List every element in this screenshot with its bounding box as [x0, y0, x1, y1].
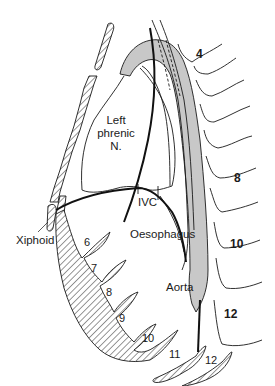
thorax-diagram: Left phrenic N. IVC Oesophagus Xiphoid A…	[0, 0, 275, 386]
vertebra-outline-6	[196, 80, 244, 96]
vertebra-outline-8a	[204, 130, 252, 148]
vertebra-number-10: 10	[230, 237, 244, 251]
manubrium-segment	[95, 23, 114, 70]
label-aorta: Aorta	[166, 281, 194, 293]
cartilage-number-8: 8	[106, 286, 112, 298]
vertebra-outline-11	[216, 258, 262, 289]
label-left-phrenic-1: Left	[106, 114, 126, 126]
vertebra-outline-12	[214, 300, 262, 346]
label-left-phrenic-2: phrenic	[97, 127, 135, 139]
vertebra-number-4: 4	[196, 47, 203, 61]
cartilage-number-10: 10	[142, 332, 154, 344]
cartilage-number-9: 9	[119, 312, 125, 324]
vertebra-outline-7	[200, 104, 250, 122]
cartilage-number-6: 6	[84, 236, 90, 248]
cartilage-number-7: 7	[91, 262, 97, 274]
vertebra-number-12: 12	[224, 307, 238, 321]
xiphoid-process	[47, 204, 56, 231]
vertebra-outline-9	[210, 188, 258, 212]
label-left-phrenic-3: N.	[110, 140, 122, 152]
cartilage-number-11: 11	[169, 348, 180, 360]
sternum-body-segment	[50, 76, 97, 202]
oesophageal-hiatus	[160, 196, 184, 252]
vertebra-number-8: 8	[234, 171, 241, 185]
label-xiphoid: Xiphoid	[16, 234, 54, 246]
xiphoid-leader-line	[38, 222, 48, 232]
aorta	[120, 40, 208, 312]
label-oesophagus: Oesophagus	[130, 228, 195, 240]
label-ivc: IVC	[138, 196, 157, 208]
vertebra-outline-8b	[206, 156, 256, 178]
cartilage-number-12: 12	[205, 354, 217, 366]
inner-lung-outline	[142, 66, 170, 186]
